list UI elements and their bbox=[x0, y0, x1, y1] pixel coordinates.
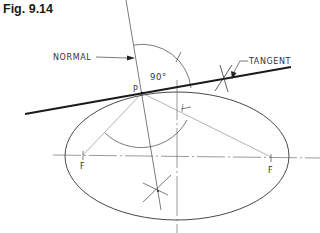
point-p bbox=[141, 92, 143, 94]
point-p-label: P bbox=[133, 85, 138, 94]
normal-leader-line bbox=[96, 57, 128, 58]
tangent-label: TANGENT bbox=[248, 57, 291, 66]
focus-left-label: F bbox=[80, 162, 85, 171]
focal-line-right bbox=[142, 93, 271, 157]
arc-tick-lower-2 bbox=[182, 104, 183, 112]
normal-cross-mark bbox=[143, 175, 171, 202]
normal-cross-point bbox=[157, 190, 159, 192]
major-axis bbox=[53, 155, 320, 158]
bisector-arc bbox=[105, 120, 187, 148]
normal-label: NORMAL bbox=[53, 53, 91, 62]
normal-line bbox=[126, 0, 161, 210]
angle-label: 90° bbox=[150, 72, 167, 82]
ellipse-tangent-normal-diagram: NORMAL TANGENT 90° P F F bbox=[0, 0, 320, 233]
tangent-leader-line bbox=[234, 61, 248, 72]
normal-leader-arrowhead bbox=[127, 56, 135, 61]
focus-right-label: F bbox=[268, 166, 273, 175]
